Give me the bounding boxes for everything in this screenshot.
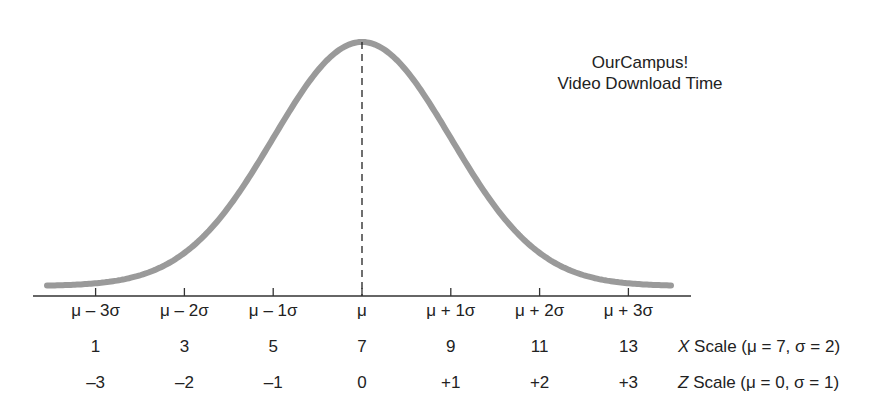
x-tick-label: 11 xyxy=(531,337,549,357)
z-tick-label: –2 xyxy=(175,373,194,393)
x-scale-name: X xyxy=(678,337,689,356)
sigma-label: μ + 2σ xyxy=(515,301,564,321)
normal-distribution-chart: OurCampus! Video Download Time μ – 3σμ –… xyxy=(0,0,879,414)
sigma-label: μ – 3σ xyxy=(71,301,120,321)
x-tick-label: 1 xyxy=(91,337,100,357)
z-scale-caption: Z Scale (μ = 0, σ = 1) xyxy=(678,373,839,393)
x-tick-label: 5 xyxy=(268,337,277,357)
chart-title: OurCampus! Video Download Time xyxy=(557,52,722,94)
z-scale-name: Z xyxy=(678,373,688,392)
z-scale-text: Scale (μ = 0, σ = 1) xyxy=(693,373,839,392)
z-tick-label: +1 xyxy=(441,373,460,393)
x-tick-label: 9 xyxy=(446,337,455,357)
x-tick-label: 13 xyxy=(619,337,638,357)
x-tick-label: 7 xyxy=(357,337,366,357)
sigma-label: μ – 2σ xyxy=(160,301,209,321)
sigma-label: μ xyxy=(357,301,367,321)
z-tick-label: +3 xyxy=(619,373,638,393)
z-tick-label: +2 xyxy=(530,373,549,393)
z-tick-label: 0 xyxy=(357,373,366,393)
title-line-2: Video Download Time xyxy=(557,73,722,94)
sigma-label: μ + 1σ xyxy=(426,301,475,321)
z-tick-label: –1 xyxy=(264,373,283,393)
title-line-1: OurCampus! xyxy=(557,52,722,73)
x-scale-text: Scale (μ = 7, σ = 2) xyxy=(694,337,840,356)
axis-ticks xyxy=(96,288,629,296)
sigma-label: μ – 1σ xyxy=(249,301,298,321)
x-scale-caption: X Scale (μ = 7, σ = 2) xyxy=(678,337,840,357)
z-tick-label: –3 xyxy=(86,373,105,393)
x-tick-label: 3 xyxy=(180,337,189,357)
sigma-label: μ + 3σ xyxy=(604,301,653,321)
